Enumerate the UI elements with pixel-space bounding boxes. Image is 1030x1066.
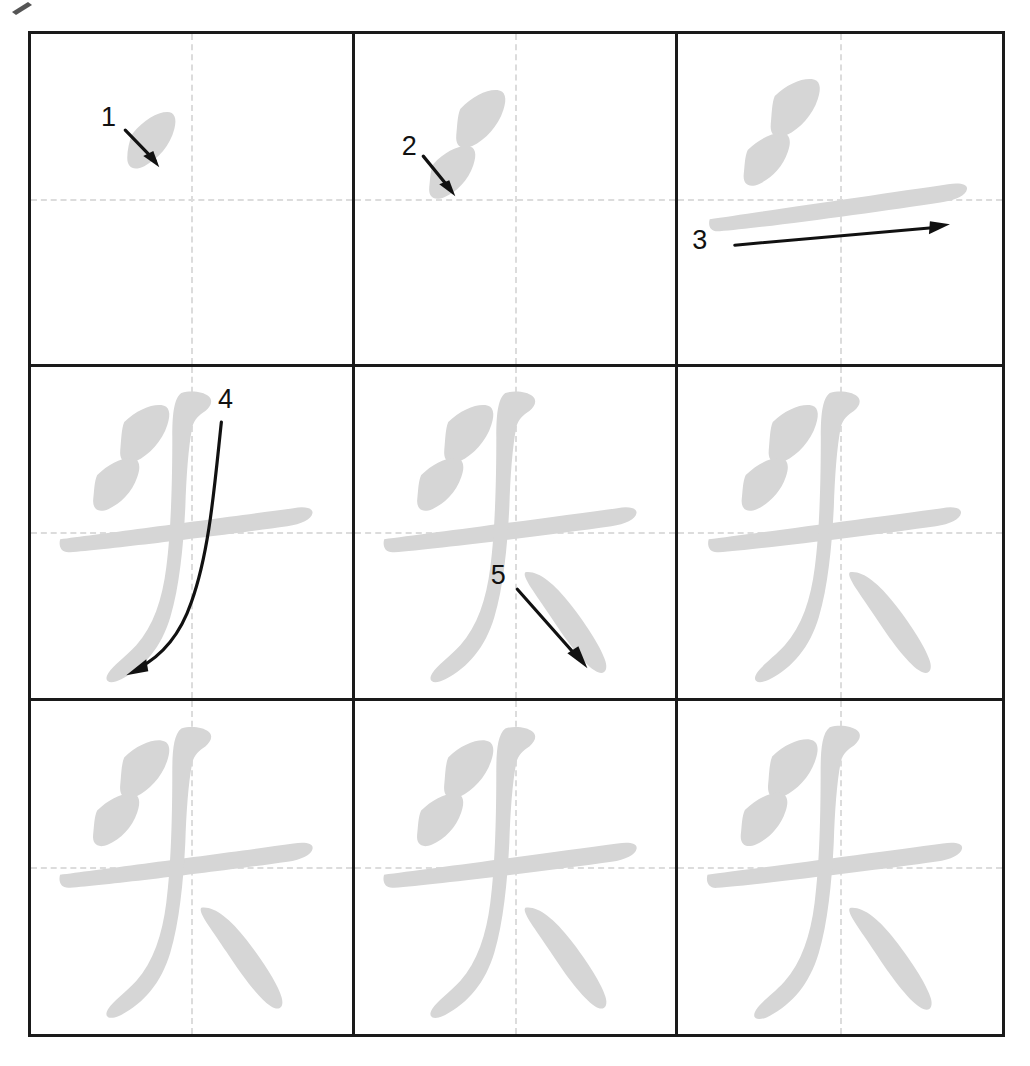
- page-top-fragment-mark: [8, 0, 38, 16]
- character-strokes: [355, 701, 676, 1034]
- completed-character-2[interactable]: [31, 701, 355, 1034]
- stroke-order-grid: 1 2: [28, 31, 1005, 1037]
- stroke-number-3: 3: [692, 227, 707, 254]
- stroke-number-5: 5: [491, 562, 506, 589]
- character-strokes: [355, 34, 676, 364]
- stroke-step-5[interactable]: 5: [355, 367, 679, 700]
- stroke-number-2: 2: [402, 133, 417, 160]
- stroke-number-1: 1: [101, 104, 116, 131]
- stroke-step-1[interactable]: 1: [31, 34, 355, 367]
- character-strokes: [678, 701, 1002, 1034]
- stroke-number-4: 4: [218, 386, 233, 413]
- completed-character-4[interactable]: [678, 701, 1002, 1034]
- character-strokes: [355, 367, 676, 697]
- stroke-step-4[interactable]: 4: [31, 367, 355, 700]
- stroke-step-2[interactable]: 2: [355, 34, 679, 367]
- character-strokes: [678, 34, 1002, 364]
- character-strokes: [678, 367, 1002, 697]
- completed-character-1[interactable]: [678, 367, 1002, 700]
- character-strokes: [31, 367, 352, 697]
- completed-character-3[interactable]: [355, 701, 679, 1034]
- stroke-step-3[interactable]: 3: [678, 34, 1002, 367]
- character-strokes: [31, 34, 352, 364]
- character-strokes: [31, 701, 352, 1034]
